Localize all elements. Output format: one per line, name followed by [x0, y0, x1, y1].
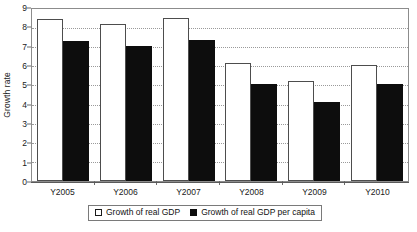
x-tick-label-y2007: Y2007	[157, 186, 220, 200]
legend-swatch-hollow-icon	[95, 209, 102, 216]
bar-group-y2009	[283, 9, 346, 181]
x-axis-tick-labels: Y2005Y2006Y2007Y2008Y2009Y2010	[31, 186, 409, 200]
plot-area	[31, 8, 409, 182]
x-tick-label-y2008: Y2008	[220, 186, 283, 200]
bar-y2006-series2	[126, 46, 152, 181]
bar-y2009-series1	[288, 81, 314, 181]
x-tick-label-y2006: Y2006	[94, 186, 157, 200]
bar-group-y2010	[345, 9, 408, 181]
legend-label-2: Growth of real GDP per capita	[201, 208, 315, 217]
bar-y2009-series2	[314, 102, 340, 181]
legend-entry-2: Growth of real GDP per capita	[190, 208, 315, 217]
legend-entry-1: Growth of real GDP	[95, 208, 180, 217]
bar-y2008-series2	[251, 84, 277, 181]
bar-group-y2006	[95, 9, 158, 181]
bar-y2007-series2	[189, 40, 215, 181]
y-axis-tick-labels: 0123456789	[14, 8, 31, 182]
x-tick-label-y2010: Y2010	[346, 186, 409, 200]
chart-legend: Growth of real GDPGrowth of real GDP per…	[88, 205, 322, 221]
legend-swatch-filled-icon	[190, 209, 197, 216]
bar-y2005-series1	[37, 19, 63, 181]
bar-y2010-series2	[377, 84, 403, 181]
bar-group-y2008	[220, 9, 283, 181]
bar-chart: Growth rate 0123456789 Y2005Y2006Y2007Y2…	[0, 0, 417, 232]
bar-group-y2005	[32, 9, 95, 181]
y-axis-title: Growth rate	[0, 0, 14, 190]
x-tick-label-y2005: Y2005	[31, 186, 94, 200]
x-axis-line	[31, 182, 409, 183]
bar-groups	[32, 9, 408, 181]
bar-y2006-series1	[100, 24, 126, 181]
bar-y2007-series1	[163, 18, 189, 181]
legend-label-1: Growth of real GDP	[106, 208, 180, 217]
bar-y2008-series1	[225, 63, 251, 181]
x-tick-label-y2009: Y2009	[283, 186, 346, 200]
plot-inner	[32, 9, 408, 181]
bar-group-y2007	[157, 9, 220, 181]
bar-y2005-series2	[63, 41, 89, 181]
y-axis-title-label: Growth rate	[2, 72, 12, 118]
bar-y2010-series1	[351, 65, 377, 181]
